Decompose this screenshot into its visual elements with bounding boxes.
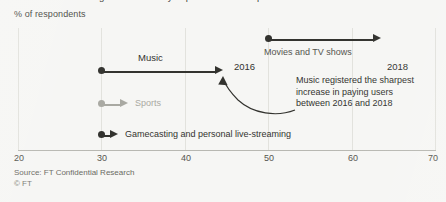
series-start-dot	[98, 131, 105, 138]
series-sports: Sports	[101, 98, 201, 112]
chart-headline: Which of the following services have you…	[12, 0, 437, 2]
axis-title: % of respondents	[14, 9, 86, 19]
x-tick-30: 30	[97, 153, 107, 163]
chart-headline-text: Which of the following services have you…	[12, 0, 437, 2]
series-label-music: Music	[138, 52, 163, 63]
source-text: Source: FT Confidential Research	[14, 168, 134, 179]
callout-text: Music registered the sharpest increase i…	[296, 75, 446, 110]
series-arrowhead	[120, 99, 128, 107]
series-label-movies: Movies and TV shows	[264, 47, 352, 57]
series-start-dot	[98, 100, 105, 107]
gridline-20	[18, 28, 19, 150]
x-tick-20: 20	[14, 153, 24, 163]
series-line	[268, 39, 375, 41]
callout-line-1: Music registered the sharpest	[296, 75, 446, 87]
series-label-gamecasting: Gamecasting and personal live-streaming	[125, 129, 291, 139]
chart-footer: Source: FT Confidential Research © FT	[14, 168, 134, 189]
callout-line-2: increase in paying users	[296, 87, 446, 99]
x-tick-70: 70	[428, 153, 438, 163]
series-arrowhead	[373, 34, 381, 42]
x-tick-50: 50	[264, 153, 274, 163]
series-gamecasting: Gamecasting and personal live-streaming	[101, 129, 311, 143]
series-start-dot	[98, 67, 105, 74]
callout-pointer-icon	[205, 70, 297, 118]
series-label-sports: Sports	[135, 98, 161, 108]
series-movies-and-tv-shows: Movies and TV shows	[268, 33, 380, 47]
year-label-end: 2018	[387, 61, 408, 72]
x-tick-40: 40	[181, 153, 191, 163]
series-line	[101, 71, 217, 73]
series-start-dot	[265, 35, 272, 42]
series-arrowhead	[110, 130, 118, 138]
copyright-text: © FT	[14, 179, 134, 190]
chart-root: Which of the following services have you…	[0, 0, 446, 202]
x-axis-line	[18, 150, 436, 151]
callout-line-3: between 2016 and 2018	[296, 98, 446, 110]
x-tick-60: 60	[348, 153, 358, 163]
